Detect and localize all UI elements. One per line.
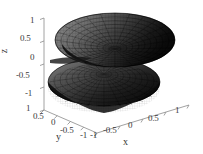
y-tick-label-0.5: 0.5 — [33, 112, 44, 121]
z-axis-ticks — [40, 18, 44, 112]
y-tick-label-1: 1 — [26, 104, 30, 113]
x-tick-label-neg0.5: -0.5 — [103, 126, 116, 135]
z-tick-label-neg1: -1 — [25, 89, 32, 98]
x-tick-label-0: 0 — [128, 121, 132, 130]
y-tick-label-neg1: -1 — [80, 131, 87, 140]
x-axis-title: x — [123, 137, 128, 147]
x-tick-label-neg1: -1 — [90, 131, 97, 140]
surface-plot-figure: 1 0.5 0 -0.5 -1 z 1 0.5 0 -0.5 -1 y -1 -… — [0, 0, 203, 154]
y-axis-title: y — [56, 132, 61, 142]
x-tick-label-1: 1 — [175, 106, 179, 115]
y-tick-label-neg0.5: -0.5 — [60, 126, 73, 135]
x-tick-label-0.5: 0.5 — [148, 114, 159, 123]
z-tick-label-0.5: 0.5 — [20, 34, 31, 43]
y-tick-label-0: 0 — [51, 118, 55, 127]
z-tick-label-neg0.5: -0.5 — [16, 71, 29, 80]
z-tick-label-1: 1 — [30, 16, 34, 25]
z-axis-title: z — [0, 49, 9, 53]
z-tick-label-0: 0 — [30, 53, 34, 62]
